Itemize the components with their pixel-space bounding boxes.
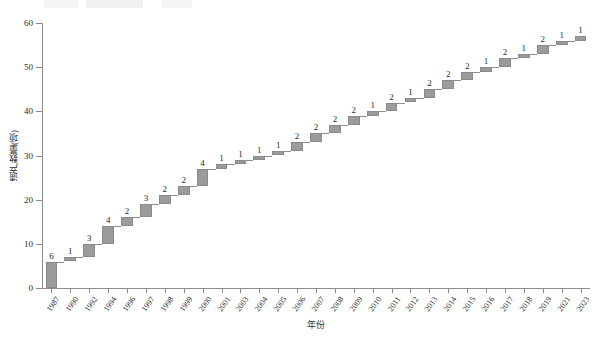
x-axis-tick: [392, 288, 393, 293]
x-axis-tick: [543, 288, 544, 293]
bar-value-label: 3: [87, 233, 92, 243]
x-axis-tick: [297, 288, 298, 293]
bar[interactable]: [424, 89, 436, 98]
bar[interactable]: [46, 262, 58, 289]
x-axis-tick: [486, 288, 487, 293]
x-axis-tick: [70, 288, 71, 293]
bar[interactable]: [102, 226, 114, 244]
y-axis-tick-label: 0: [29, 283, 34, 293]
x-axis-tick: [562, 288, 563, 293]
bar-value-label: 1: [484, 56, 489, 66]
x-axis-tick: [259, 288, 260, 293]
x-axis-tick: [222, 288, 223, 293]
bar-value-label: 2: [389, 92, 394, 102]
waterfall-connector: [530, 54, 537, 55]
waterfall-connector: [246, 160, 253, 161]
waterfall-connector: [227, 164, 234, 165]
bar[interactable]: [159, 195, 171, 204]
bar-value-label: 3: [144, 193, 149, 203]
x-axis-tick-label: 2023: [574, 295, 591, 313]
bar-value-label: 1: [68, 246, 73, 256]
x-axis-tick: [373, 288, 374, 293]
bar[interactable]: [83, 244, 95, 257]
bar-value-label: 1: [370, 100, 375, 110]
x-axis-tick-label: 2015: [461, 295, 478, 313]
waterfall-connector: [568, 41, 575, 42]
bar[interactable]: [121, 217, 133, 226]
waterfall-connector: [171, 195, 178, 196]
x-axis-tick: [165, 288, 166, 293]
bar[interactable]: [197, 169, 209, 187]
bar[interactable]: [537, 45, 549, 54]
bar[interactable]: [348, 116, 360, 125]
bar[interactable]: [386, 103, 398, 112]
x-axis-tick-label: 1994: [102, 295, 119, 313]
x-axis-tick-label: 2005: [272, 295, 289, 313]
bar[interactable]: [64, 257, 76, 261]
y-axis-title: 遗产数量(项): [6, 23, 20, 288]
bar[interactable]: [272, 151, 284, 155]
x-axis-tick: [335, 288, 336, 293]
y-axis-tick: [36, 156, 42, 157]
waterfall-connector: [76, 257, 83, 258]
bar-value-label: 2: [333, 114, 338, 124]
x-axis-tick: [240, 288, 241, 293]
x-axis-tick-label: 2017: [499, 295, 516, 313]
x-axis-tick-label: 2010: [367, 295, 384, 313]
x-axis-tick-label: 2004: [253, 295, 270, 313]
x-axis-tick: [316, 288, 317, 293]
bar-value-label: 1: [276, 140, 281, 150]
bar-value-label: 2: [352, 105, 357, 115]
waterfall-connector: [303, 142, 310, 143]
bar[interactable]: [253, 156, 265, 160]
bar[interactable]: [405, 98, 417, 102]
x-axis-tick-label: 2009: [348, 295, 365, 313]
waterfall-connector: [133, 217, 140, 218]
y-axis-tick-label: 40: [24, 106, 33, 116]
x-axis-tick-label: 2019: [537, 295, 554, 313]
bar-value-label: 1: [257, 145, 262, 155]
waterfall-connector: [152, 204, 159, 205]
x-axis-tick: [89, 288, 90, 293]
waterfall-connector: [114, 226, 121, 227]
bar[interactable]: [556, 41, 568, 45]
x-axis-tick-label: 1990: [64, 295, 81, 313]
x-axis-tick: [127, 288, 128, 293]
bar[interactable]: [367, 111, 379, 115]
plot-area: 0102030405060613423224111122221212221212…: [42, 23, 590, 288]
x-axis-tick-label: 1997: [140, 295, 157, 313]
x-axis-tick-label: 1996: [121, 295, 138, 313]
bar-value-label: 2: [314, 122, 319, 132]
x-axis-tick-label: 2003: [234, 295, 251, 313]
cut-off-caption-strip: [44, 0, 234, 8]
bar[interactable]: [329, 125, 341, 134]
x-axis-tick: [203, 288, 204, 293]
x-axis-tick-label: 2014: [442, 295, 459, 313]
bar-value-label: 1: [578, 25, 583, 35]
x-axis-tick-label: 2007: [310, 295, 327, 313]
bar[interactable]: [235, 160, 247, 164]
waterfall-connector: [379, 111, 386, 112]
bar[interactable]: [216, 164, 228, 168]
bar[interactable]: [178, 186, 190, 195]
waterfall-connector: [57, 262, 64, 263]
waterfall-connector: [549, 45, 556, 46]
bar[interactable]: [518, 54, 530, 58]
x-axis-tick-label: 2000: [196, 295, 213, 313]
x-axis-tick-label: 1999: [178, 295, 195, 313]
x-axis-tick-label: 2006: [291, 295, 308, 313]
bar-value-label: 1: [408, 87, 413, 97]
y-axis-tick: [36, 67, 42, 68]
x-axis-tick: [524, 288, 525, 293]
x-axis-title: 年份: [42, 318, 590, 331]
bar[interactable]: [310, 133, 322, 142]
bar[interactable]: [140, 204, 152, 217]
bar[interactable]: [461, 72, 473, 81]
bar[interactable]: [499, 58, 511, 67]
bar[interactable]: [291, 142, 303, 151]
waterfall-connector: [454, 80, 461, 81]
bar[interactable]: [575, 36, 587, 40]
bar[interactable]: [480, 67, 492, 71]
bar[interactable]: [442, 80, 454, 89]
chart-screenshot: 遗产数量(项) 01020304050606134232241111222212…: [0, 0, 604, 340]
